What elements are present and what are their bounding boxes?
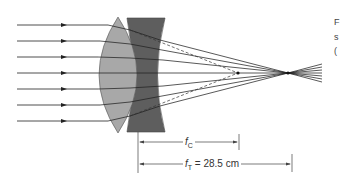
focal-point-converging bbox=[236, 71, 239, 74]
edge-text-2: s bbox=[334, 32, 339, 42]
edge-text-1: F bbox=[334, 17, 340, 27]
fc-label: fC bbox=[183, 136, 195, 151]
ft-value: = 28.5 cm bbox=[192, 158, 239, 169]
fc-subscript: C bbox=[188, 142, 193, 149]
edge-text-3: ( bbox=[334, 46, 337, 56]
arrowheads bbox=[61, 23, 67, 123]
focal-point-total bbox=[286, 71, 289, 74]
ft-label: fT = 28.5 cm bbox=[183, 158, 241, 173]
